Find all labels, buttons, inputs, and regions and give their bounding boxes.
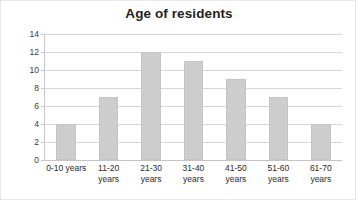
x-axis-tick-labels: 0-10 years11-20years21-30years31-40years…: [45, 163, 342, 199]
chart-title: Age of residents: [1, 6, 356, 21]
plot-area: [45, 34, 342, 160]
y-tick-mark-4: [41, 124, 45, 125]
bar-0-10-years[interactable]: [56, 124, 76, 160]
y-axis-tick-labels: 02468101214: [7, 34, 39, 160]
bar-chart: Age of residents 02468101214 0-10 years1…: [0, 0, 356, 200]
y-tick-mark-8: [41, 88, 45, 89]
bar-series: [45, 34, 342, 160]
y-tick-label-12: 12: [9, 48, 39, 57]
bar-21-30-years[interactable]: [141, 52, 161, 160]
y-tick-label-4: 4: [9, 120, 39, 129]
y-tick-label-8: 8: [9, 84, 39, 93]
y-tick-label-10: 10: [9, 66, 39, 75]
y-tick-mark-6: [41, 106, 45, 107]
bar-61-70-years[interactable]: [311, 124, 331, 160]
y-tick-mark-0: [41, 160, 45, 161]
x-tick-label-61-70-years: 61-70years: [296, 163, 346, 185]
bar-11-20-years[interactable]: [99, 97, 119, 160]
y-tick-mark-10: [41, 70, 45, 71]
bar-41-50-years[interactable]: [226, 79, 246, 160]
y-tick-label-6: 6: [9, 102, 39, 111]
y-tick-label-14: 14: [9, 30, 39, 39]
y-tick-label-0: 0: [9, 156, 39, 165]
y-tick-label-2: 2: [9, 138, 39, 147]
y-tick-mark-2: [41, 142, 45, 143]
bar-31-40-years[interactable]: [184, 61, 204, 160]
y-tick-mark-12: [41, 52, 45, 53]
bar-51-60-years[interactable]: [269, 97, 289, 160]
y-tick-mark-14: [41, 34, 45, 35]
